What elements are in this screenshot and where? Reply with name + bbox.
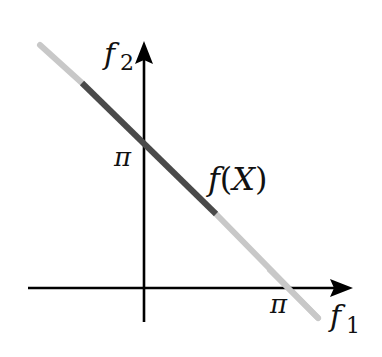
curve-label-open-paren: ( xyxy=(220,160,232,198)
curve-label: f(X) xyxy=(206,160,268,198)
curve-dark-segment xyxy=(82,83,216,214)
y-axis-label: f xyxy=(102,36,120,71)
curve-light-upper-segment xyxy=(40,45,82,83)
curve-label-close-paren: ) xyxy=(255,160,267,198)
x-axis-tick-label: π xyxy=(269,289,288,319)
diagram-svg: f 2 f 1 π π f(X) xyxy=(0,0,382,357)
curve-label-X: X xyxy=(229,160,256,198)
diagram-canvas: f 2 f 1 π π f(X) xyxy=(0,0,382,357)
x-axis-label-subscript: 1 xyxy=(346,313,360,338)
y-axis-tick-label: π xyxy=(113,142,132,172)
y-axis-label-subscript: 2 xyxy=(120,50,134,75)
x-axis-label: f xyxy=(328,298,346,333)
